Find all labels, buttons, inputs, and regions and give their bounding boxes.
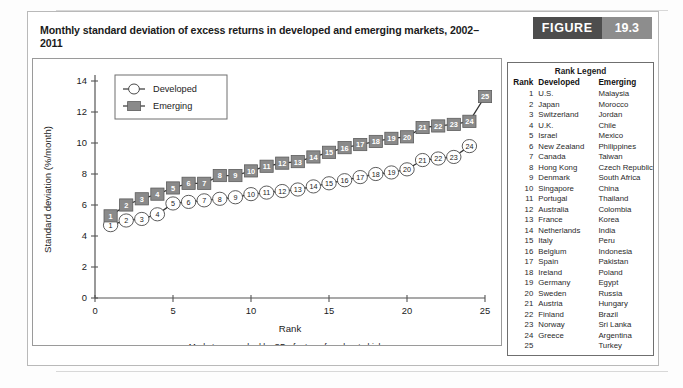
marker-rank-label: 7 (202, 196, 206, 205)
data-point-developed-4: 4 (150, 208, 164, 221)
table-row: 9DenmarkSouth Africa (508, 173, 653, 184)
data-point-developed-5: 5 (166, 197, 180, 210)
marker-rank-label: 3 (140, 195, 144, 204)
marker-rank-label: 6 (187, 179, 191, 188)
table-row: 23NorwaySri Lanka (508, 320, 653, 331)
page-title: Monthly standard deviation of excess ret… (40, 24, 490, 50)
data-point-emerging-16: 16 (338, 142, 351, 154)
cell-rank: 16 (508, 247, 538, 258)
data-point-emerging-15: 15 (322, 146, 335, 158)
cell-rank: 7 (508, 152, 538, 163)
marker-rank-label: 21 (419, 156, 427, 165)
column-header-rank: Rank (508, 78, 538, 89)
chart-caption: Markets are ranked by SD of return, from… (189, 342, 384, 345)
table-row: 4U.K.Chile (508, 121, 653, 132)
table-row: 5IsraelMexico (508, 131, 653, 142)
cell-developed: Germany (538, 278, 598, 289)
y-tick-label: 12 (77, 106, 87, 117)
legend-marker-developed (129, 84, 140, 94)
figure-badge-label: FIGURE (533, 17, 602, 39)
data-point-developed-13: 13 (291, 183, 305, 196)
chart-legend-box (115, 75, 227, 119)
cell-rank: 6 (508, 142, 538, 153)
y-tick-label: 2 (82, 261, 87, 272)
marker-rank-label: 8 (218, 195, 222, 204)
table-row: 24GreeceArgentina (508, 331, 653, 342)
x-tick-label: 20 (402, 305, 412, 316)
cell-rank: 12 (508, 205, 538, 216)
marker-rank-label: 17 (356, 173, 364, 182)
marker-rank-label: 6 (187, 198, 191, 207)
rank-legend-table: Rank Developed Emerging 1U.S.Malaysia2Ja… (508, 78, 653, 352)
data-point-emerging-8: 8 (213, 169, 226, 181)
table-row: 10SingaporeChina (508, 184, 653, 195)
marker-rank-label: 24 (465, 142, 473, 151)
cell-rank: 11 (508, 194, 538, 205)
x-axis-label: Rank (279, 323, 302, 334)
marker-rank-label: 2 (124, 216, 128, 225)
table-row: 16BelgiumIndonesia (508, 247, 653, 258)
table-row: 7CanadaTaiwan (508, 152, 653, 163)
cell-rank: 8 (508, 163, 538, 174)
column-header-developed: Developed (538, 78, 598, 89)
data-point-developed-3: 3 (135, 212, 149, 225)
cell-developed: Netherlands (538, 226, 598, 237)
cell-emerging: Peru (598, 236, 653, 247)
data-point-emerging-3: 3 (135, 193, 148, 205)
data-point-emerging-11: 11 (260, 160, 273, 172)
cell-developed: Israel (538, 131, 598, 142)
cell-developed: Portugal (538, 194, 598, 205)
table-row: 12AustraliaColombia (508, 205, 653, 216)
cell-emerging: Malaysia (598, 89, 653, 100)
cell-developed: Japan (538, 100, 598, 111)
rank-legend-title: Rank Legend (508, 65, 653, 78)
marker-rank-label: 17 (356, 140, 364, 149)
chart-plot-frame: 024681012140510152025Standard deviation … (32, 58, 502, 346)
cell-emerging: Philippines (598, 142, 653, 153)
cell-emerging: Poland (598, 268, 653, 279)
marker-rank-label: 18 (372, 170, 380, 179)
x-tick-label: 5 (170, 305, 175, 316)
marker-rank-label: 14 (309, 153, 318, 162)
data-point-emerging-25: 25 (478, 90, 491, 102)
data-point-emerging-6: 6 (182, 177, 195, 189)
cell-developed: Canada (538, 152, 598, 163)
cell-emerging: Brazil (598, 310, 653, 321)
marker-rank-label: 1 (109, 212, 113, 221)
cell-developed: Austria (538, 299, 598, 310)
table-row: 6New ZealandPhilippines (508, 142, 653, 153)
cell-emerging: Sri Lanka (598, 320, 653, 331)
cell-rank: 15 (508, 236, 538, 247)
cell-rank: 3 (508, 110, 538, 121)
table-row: 20SwedenRussia (508, 289, 653, 300)
marker-rank-label: 23 (450, 120, 458, 129)
cell-developed: Singapore (538, 184, 598, 195)
cell-emerging: Taiwan (598, 152, 653, 163)
table-row: 11PortugalThailand (508, 194, 653, 205)
table-row: 8Hong KongCzech Republic (508, 163, 653, 174)
data-point-developed-6: 6 (181, 195, 195, 208)
marker-rank-label: 9 (233, 171, 237, 180)
marker-rank-label: 9 (233, 193, 237, 202)
cell-rank: 13 (508, 215, 538, 226)
cell-rank: 2 (508, 100, 538, 111)
marker-rank-label: 7 (202, 179, 206, 188)
marker-rank-label: 18 (372, 137, 380, 146)
cell-emerging: Hungary (598, 299, 653, 310)
cell-emerging: South Africa (598, 173, 653, 184)
data-point-developed-15: 15 (322, 177, 336, 190)
y-tick-label: 6 (82, 199, 87, 210)
cell-rank: 14 (508, 226, 538, 237)
cell-developed: Spain (538, 257, 598, 268)
figure-page: Monthly standard deviation of excess ret… (0, 0, 683, 388)
cell-rank: 20 (508, 289, 538, 300)
cell-rank: 18 (508, 268, 538, 279)
marker-rank-label: 23 (450, 153, 458, 162)
table-row: 19GermanyEgypt (508, 278, 653, 289)
marker-rank-label: 11 (263, 162, 271, 171)
data-point-emerging-18: 18 (369, 135, 382, 147)
table-row: 25Turkey (508, 341, 653, 352)
cell-emerging: Korea (598, 215, 653, 226)
table-row: 2JapanMorocco (508, 100, 653, 111)
cell-emerging: Indonesia (598, 247, 653, 258)
